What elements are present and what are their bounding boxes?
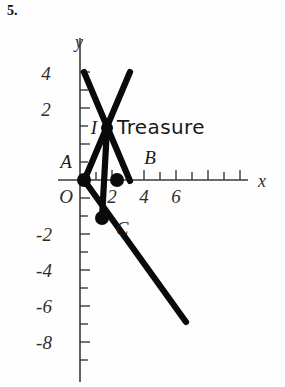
- x-tick-label-6: 6: [171, 186, 181, 207]
- x-tick-label-2: 2: [107, 186, 117, 207]
- point-label-A: A: [58, 151, 72, 172]
- point-label-C: C: [116, 218, 129, 239]
- y-tick-label-neg8: -8: [36, 332, 52, 353]
- point-B[interactable]: [110, 173, 124, 187]
- y-tick-label-neg2: -2: [36, 224, 52, 245]
- x-axis-label: x: [257, 171, 266, 191]
- y-tick-label-2: 2: [41, 99, 51, 120]
- coordinate-plot: 4 2 O -2 -4 -6 -8 2 4 6 y x A B C I Trea: [0, 0, 285, 387]
- y-tick-label-0: O: [59, 186, 73, 207]
- point-label-I: I: [90, 117, 99, 138]
- y-tick-label-4: 4: [41, 63, 51, 84]
- y-tick-label-neg6: -6: [36, 296, 52, 317]
- y-axis-label: y: [73, 32, 83, 52]
- point-A[interactable]: [77, 173, 91, 187]
- y-tick-label-neg4: -4: [36, 260, 52, 281]
- treasure-label: Treasure: [116, 115, 205, 139]
- point-C[interactable]: [95, 211, 109, 225]
- point-I-treasure[interactable]: [101, 122, 113, 134]
- figure-root: 5.: [0, 0, 285, 387]
- point-label-B: B: [144, 147, 156, 168]
- y-axis-ticks: [80, 72, 90, 360]
- x-tick-label-4: 4: [139, 186, 149, 207]
